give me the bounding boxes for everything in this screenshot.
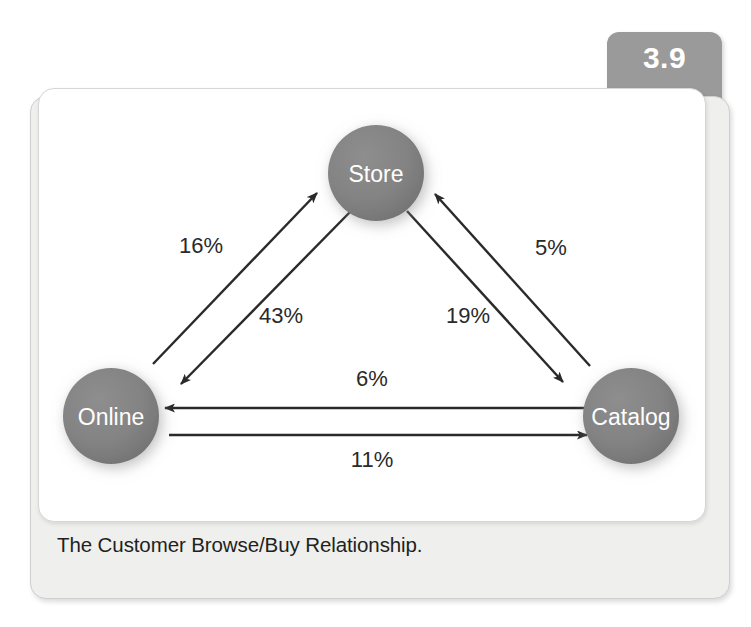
edge-label-store-to-catalog: 19% [446, 303, 490, 328]
figure-number-label: 3.9 [607, 41, 722, 75]
diagram-card: Store Online Catalog 16% 43% 5% 19% 6% 1… [38, 88, 706, 522]
node-online-label: Online [78, 404, 144, 430]
edge-catalog-to-store [435, 194, 590, 366]
node-catalog: Catalog [583, 368, 679, 464]
edge-label-catalog-to-store: 5% [535, 235, 567, 260]
edge-online-to-store [153, 193, 317, 364]
edge-label-online-to-store: 16% [179, 233, 223, 258]
relationship-diagram: Store Online Catalog 16% 43% 5% 19% 6% 1… [38, 88, 706, 522]
figure-container: 3.9 [0, 0, 751, 627]
figure-caption-text: The Customer Browse/Buy Relationship. [57, 532, 697, 558]
edge-label-store-to-online: 43% [259, 303, 303, 328]
node-catalog-label: Catalog [591, 404, 670, 430]
node-online: Online [63, 368, 159, 464]
edge-label-online-to-catalog: 11% [351, 447, 393, 472]
node-store: Store [328, 125, 424, 221]
edge-label-catalog-to-online: 6% [356, 366, 388, 391]
node-store-label: Store [349, 161, 404, 187]
